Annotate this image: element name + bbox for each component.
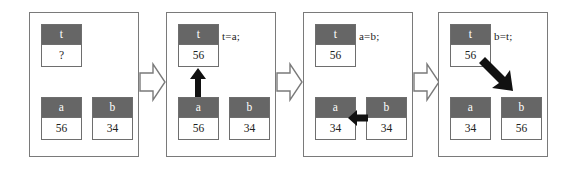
variable-box-a: a 56 — [41, 97, 82, 140]
variable-name-t: t — [42, 25, 81, 45]
panel-step-3: t 56 a 34 b 34 a=b; — [303, 12, 413, 157]
variable-name-t: t — [451, 25, 490, 45]
variable-box-t: t 56 — [315, 24, 356, 67]
connector-arrow-2 — [276, 62, 303, 102]
variable-name-b: b — [230, 98, 269, 118]
variable-value-a: 34 — [451, 118, 490, 139]
variable-box-t: t ? — [41, 24, 82, 67]
variable-name-b: b — [93, 98, 132, 118]
variable-box-a: a 56 — [178, 97, 219, 140]
assignment-arrow-left-icon — [348, 108, 368, 128]
panel-step-1: t ? a 56 b 34 — [29, 12, 139, 157]
variable-box-t: t 56 — [178, 24, 219, 67]
left-arrow-icon — [348, 108, 368, 128]
variable-value-t: 56 — [179, 45, 218, 66]
variable-value-t: ? — [42, 45, 81, 66]
code-label-step-2: t=a; — [222, 30, 240, 42]
panel-step-2: t 56 a 56 b 34 t=a; — [166, 12, 276, 157]
code-label-step-4: b=t; — [494, 30, 513, 42]
variable-name-b: b — [367, 98, 406, 118]
variable-name-b: b — [502, 98, 541, 118]
variable-name-t: t — [316, 25, 355, 45]
variable-name-a: a — [42, 98, 81, 118]
swap-diagram: t ? a 56 b 34 t 56 a 56 b 34 — [0, 0, 562, 172]
variable-value-b: 34 — [230, 118, 269, 139]
variable-value-b: 34 — [367, 118, 406, 139]
variable-name-a: a — [451, 98, 490, 118]
connector-arrow-3 — [413, 62, 440, 102]
right-block-arrow-icon — [413, 62, 440, 102]
variable-name-a: a — [179, 98, 218, 118]
variable-value-t: 56 — [316, 45, 355, 66]
code-label-step-3: a=b; — [359, 30, 379, 42]
down-right-arrow-icon — [479, 57, 517, 95]
assignment-arrow-diagonal-icon — [479, 57, 517, 95]
variable-box-b: b 34 — [229, 97, 270, 140]
up-arrow-icon — [189, 68, 207, 97]
variable-box-b: b 34 — [366, 97, 407, 140]
variable-box-a: a 34 — [450, 97, 491, 140]
variable-box-b: b 34 — [92, 97, 133, 140]
variable-value-b: 34 — [93, 118, 132, 139]
variable-value-a: 56 — [179, 118, 218, 139]
variable-value-a: 56 — [42, 118, 81, 139]
assignment-arrow-up-icon — [189, 68, 207, 97]
connector-arrow-1 — [139, 62, 166, 102]
right-block-arrow-icon — [139, 62, 166, 102]
variable-value-b: 56 — [502, 118, 541, 139]
variable-box-b: b 56 — [501, 97, 542, 140]
right-block-arrow-icon — [276, 62, 303, 102]
panel-step-4: t 56 a 34 b 56 b=t; — [438, 12, 548, 157]
variable-name-t: t — [179, 25, 218, 45]
